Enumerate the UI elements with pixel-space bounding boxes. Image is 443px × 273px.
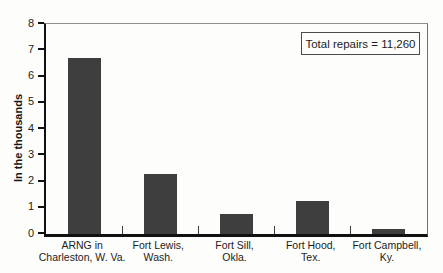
bar-1: [144, 174, 177, 234]
y-axis-tick: [38, 153, 44, 155]
y-tick-label: 5: [8, 96, 34, 107]
y-tick-label: 6: [8, 70, 34, 81]
x-category-label: Fort Campbell, Ky.: [332, 239, 442, 263]
x-axis-tick: [198, 226, 199, 234]
y-tick-label: 4: [8, 123, 34, 134]
y-tick-label: 2: [8, 175, 34, 186]
x-axis-tick: [274, 226, 275, 234]
bar-4: [372, 229, 405, 234]
x-axis-tick: [350, 226, 351, 234]
y-axis-tick: [38, 232, 44, 234]
bar-2: [220, 214, 253, 234]
x-axis-tick: [122, 226, 123, 234]
y-tick-label: 1: [8, 201, 34, 212]
y-axis-tick: [38, 180, 44, 182]
bar-chart: In the thousands Total repairs = 11,260 …: [0, 0, 443, 273]
y-axis-tick: [38, 22, 44, 24]
y-tick-label: 7: [8, 44, 34, 55]
y-axis-tick: [38, 206, 44, 208]
plot-area: [44, 23, 428, 237]
y-axis-tick: [38, 101, 44, 103]
y-tick-label: 8: [8, 18, 34, 29]
y-tick-label: 0: [8, 228, 34, 239]
bar-0: [68, 58, 101, 234]
y-axis-tick: [38, 48, 44, 50]
total-repairs-label: Total repairs = 11,260: [305, 38, 415, 50]
y-axis-tick: [38, 127, 44, 129]
total-repairs-legend: Total repairs = 11,260: [301, 32, 420, 55]
y-tick-label: 3: [8, 149, 34, 160]
y-axis-tick: [38, 75, 44, 77]
bar-3: [296, 201, 329, 234]
